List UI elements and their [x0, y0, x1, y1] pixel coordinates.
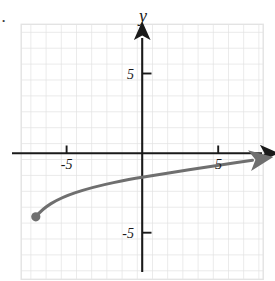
- closed-endpoint-dot: [31, 212, 40, 221]
- graph-figure: .: [0, 0, 275, 281]
- x-tick-label-neg5: -5: [61, 157, 73, 172]
- y-tick-label-pos5: 5: [127, 67, 134, 82]
- coordinate-plane: -5 5 5 -5 y: [0, 0, 275, 281]
- y-axis-label: y: [137, 6, 147, 26]
- y-tick-label-neg5: -5: [122, 226, 134, 241]
- x-tick-label-pos5: 5: [215, 157, 222, 172]
